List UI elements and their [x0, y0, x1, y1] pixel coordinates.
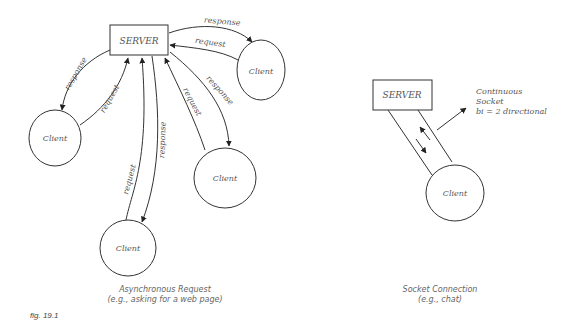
arrow-bottom-response: [142, 56, 158, 222]
arrow-lowright-response: [170, 52, 229, 146]
arrow-socket-up: [420, 127, 430, 140]
socket-caption-subtitle: (e.g., chat): [418, 295, 462, 304]
socket-note-line2: Socket: [476, 97, 504, 106]
socket-note-line3: bi = 2 directional: [476, 107, 547, 116]
socket-server-label: SERVER: [382, 90, 421, 100]
client-left-label: Client: [43, 134, 68, 143]
arrow-left-request: [80, 58, 128, 125]
label-left-response: response: [63, 55, 89, 91]
figure-label: fig. 19.1: [30, 311, 58, 320]
arrow-socket-note: [437, 108, 466, 130]
arrow-socket-down: [416, 139, 426, 153]
socket-diagram: SERVER Client Continuous Socket bi = 2 d…: [373, 80, 547, 304]
label-right-response: response: [204, 15, 242, 27]
socket-client-label: Client: [443, 189, 468, 198]
label-right-request: request: [194, 36, 227, 49]
socket-channel-left: [388, 110, 432, 175]
client-bottom-label: Client: [116, 244, 141, 253]
diagram-canvas: SERVER Client response request Client re…: [0, 0, 583, 332]
socket-caption-title: Socket Connection: [403, 285, 478, 294]
async-caption-subtitle: (e.g., asking for a web page): [107, 295, 222, 304]
label-left-request: request: [98, 82, 122, 114]
arrow-right-request: [170, 45, 238, 60]
socket-note-line1: Continuous: [476, 87, 522, 96]
client-lowright-label: Client: [213, 174, 238, 183]
async-server-label: SERVER: [119, 36, 158, 46]
client-right-label: Client: [249, 67, 274, 76]
socket-channel-right: [418, 110, 452, 162]
async-caption-title: Asynchronous Request: [118, 285, 212, 294]
label-bottom-response: response: [157, 121, 167, 158]
label-bottom-request: request: [121, 163, 138, 196]
async-diagram: SERVER Client response request Client re…: [29, 15, 285, 304]
label-lowright-response: response: [204, 74, 235, 107]
label-lowright-request: request: [181, 86, 204, 118]
